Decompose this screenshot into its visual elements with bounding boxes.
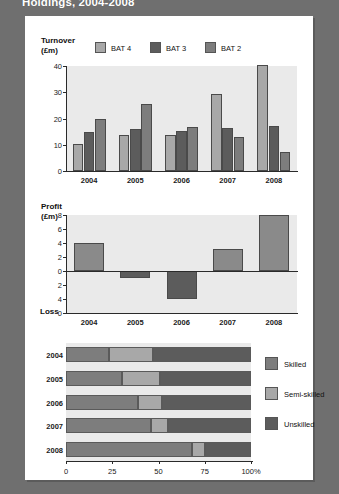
legend-swatch-skilled: [265, 357, 278, 370]
profit-bar-2005: [120, 271, 150, 278]
turnover-bar-bat2-2006: [187, 127, 198, 171]
workforce-xtick-label-75: 75: [189, 467, 221, 476]
turnover-x-axis-line: [66, 171, 298, 172]
turnover-xtick-label-2005: 2005: [112, 176, 158, 185]
profit-xtick-label-2005: 2005: [112, 318, 158, 327]
turnover-bar-bat2-2007: [234, 137, 245, 171]
workforce-xtick-label-100%: 100%: [235, 467, 267, 476]
workforce-xtick-label-50: 50: [143, 467, 175, 476]
legend-label-semi-skilled: Semi-skilled: [284, 390, 324, 399]
turnover-ytick-label: 0: [46, 167, 62, 176]
turnover-bar-bat3-2007: [222, 128, 233, 171]
turnover-bar-bat2-2005: [141, 104, 152, 171]
chart-card: Turnover (£m) BAT 4 BAT 3 BAT 2 01020304…: [25, 16, 313, 480]
legend-swatch-semi-skilled: [265, 387, 278, 400]
turnover-bar-bat4-2005: [119, 135, 130, 171]
legend-swatch-bat4: [95, 42, 106, 53]
workforce-seg-unskilled-2007: [168, 418, 251, 433]
profit-ytick-label: 2: [48, 281, 62, 290]
turnover-bar-bat3-2008: [269, 126, 280, 171]
workforce-seg-semiskilled-2005: [122, 371, 161, 386]
profit-ytick: [63, 299, 66, 300]
turnover-bar-bat4-2007: [211, 94, 222, 171]
turnover-ytick-label: 20: [46, 115, 62, 124]
workforce-row-label-2006: 2006: [40, 399, 63, 408]
workforce-seg-semiskilled-2008: [192, 442, 205, 457]
profit-ytick-label: 0: [48, 309, 62, 318]
turnover-ytick: [63, 92, 66, 93]
profit-xtick-label-2004: 2004: [66, 318, 112, 327]
workforce-seg-skilled-2004: [66, 347, 109, 362]
workforce-seg-skilled-2008: [66, 442, 192, 457]
legend-label-bat3: BAT 3: [166, 44, 186, 53]
legend-swatch-bat2: [205, 42, 216, 53]
workforce-xtick: [205, 461, 206, 464]
workforce-seg-unskilled-2006: [162, 395, 251, 410]
workforce-seg-semiskilled-2006: [138, 395, 162, 410]
turnover-ytick: [63, 119, 66, 120]
turnover-xtick-label-2007: 2007: [205, 176, 251, 185]
profit-ytick-label: 6: [48, 225, 62, 234]
profit-ytick: [63, 257, 66, 258]
workforce-seg-unskilled-2008: [205, 442, 251, 457]
profit-ytick: [63, 243, 66, 244]
turnover-ytick-label: 30: [46, 88, 62, 97]
turnover-ytick: [63, 66, 66, 67]
legend-label-unskilled: Unskilled: [284, 420, 314, 429]
workforce-xtick: [66, 461, 67, 464]
turnover-xtick-label-2008: 2008: [251, 176, 297, 185]
workforce-xtick: [251, 461, 252, 464]
profit-ytick-label: 0: [48, 267, 62, 276]
profit-ytick-label: 4: [48, 239, 62, 248]
workforce-row-label-2004: 2004: [40, 351, 63, 360]
turnover-xtick-label-2004: 2004: [66, 176, 112, 185]
workforce-seg-semiskilled-2004: [109, 347, 153, 362]
profit-ytick-label: 8: [48, 211, 62, 220]
turnover-bar-bat3-2006: [176, 131, 187, 171]
profit-xtick-label-2008: 2008: [251, 318, 297, 327]
legend-swatch-bat3: [150, 42, 161, 53]
turnover-y-axis-line: [66, 66, 67, 172]
workforce-xtick-label-25: 25: [96, 467, 128, 476]
workforce-row-label-2007: 2007: [40, 422, 63, 431]
workforce-seg-skilled-2007: [66, 418, 151, 433]
workforce-row-label-2005: 2005: [40, 375, 63, 384]
profit-y-axis-line: [66, 215, 67, 314]
profit-ytick: [63, 229, 66, 230]
profit-bar-2004: [74, 243, 104, 271]
turnover-bar-bat4-2008: [257, 65, 268, 171]
profit-bar-2007: [213, 249, 243, 271]
workforce-seg-skilled-2006: [66, 395, 138, 410]
workforce-xtick: [159, 461, 160, 464]
legend-label-skilled: Skilled: [284, 360, 306, 369]
profit-bar-2006: [167, 271, 197, 299]
legend-label-bat2: BAT 2: [221, 44, 241, 53]
profit-ytick: [63, 285, 66, 286]
profit-zero-line: [66, 271, 298, 272]
legend-label-bat4: BAT 4: [111, 44, 131, 53]
turnover-ytick-label: 40: [46, 62, 62, 71]
workforce-xtick: [112, 461, 113, 464]
profit-ytick-label: 2: [48, 253, 62, 262]
workforce-row-label-2008: 2008: [40, 446, 63, 455]
turnover-bar-bat3-2005: [130, 129, 141, 171]
profit-bar-2008: [259, 215, 289, 271]
workforce-seg-unskilled-2004: [153, 347, 251, 362]
turnover-ytick-label: 10: [46, 141, 62, 150]
turnover-bar-bat2-2008: [280, 152, 291, 171]
profit-ytick-label: 4: [48, 295, 62, 304]
workforce-xtick-label-0: 0: [50, 467, 82, 476]
turnover-bar-bat4-2004: [73, 144, 84, 171]
page-title: Holdings, 2004-2008: [22, 0, 134, 8]
turnover-xtick-label-2006: 2006: [158, 176, 204, 185]
profit-ytick: [63, 215, 66, 216]
turnover-bar-bat4-2006: [165, 135, 176, 171]
profit-xtick-label-2006: 2006: [158, 318, 204, 327]
turnover-axis-title: Turnover (£m): [41, 36, 75, 56]
turnover-bar-bat3-2004: [84, 132, 95, 171]
workforce-seg-skilled-2005: [66, 371, 122, 386]
legend-swatch-unskilled: [265, 417, 278, 430]
profit-x-axis-line: [66, 313, 298, 314]
workforce-seg-unskilled-2005: [160, 371, 251, 386]
turnover-ytick: [63, 145, 66, 146]
